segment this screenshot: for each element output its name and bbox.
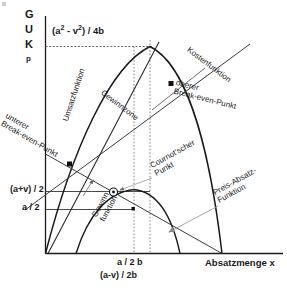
y-axis-label-g: G [25,9,34,21]
formula-middle: - v [64,25,78,36]
y-tick-a-over-2: a / 2 [22,203,40,212]
y-tick-a-plus-v-over-2: (a+v) / 2 [10,185,44,194]
cournotscher-punkt-dot [112,191,115,194]
x-axis-title: Absatzmenge x [205,258,275,268]
x-tick-a-minus-v-over-2b: (a-v) / 2b [100,271,137,280]
economics-diagram: G U K p (a2 - v2) / 4b (a+v) / 2 a / 2 a… [0,0,287,292]
gewinn-leader-arrow [83,180,93,196]
formula-suffix: ) / 4b [82,25,104,36]
oberer-break-even-punkt-marker [169,81,174,86]
x-tick-a-over-2b: a / 2 b [117,258,143,267]
cournot-leader-arrow [120,178,152,190]
preis-absatz-tick-marker [132,207,135,210]
y-axis-label-u: U [25,24,33,36]
corner-speck [2,2,6,6]
y-axis-label-k: K [25,39,33,51]
unterer-break-even-punkt-marker [67,162,72,167]
peak-revenue-formula: (a2 - v2) / 4b [52,24,104,36]
preis-absatz-leader-arrow [169,206,218,232]
y-axis-label-p: p [26,55,31,63]
